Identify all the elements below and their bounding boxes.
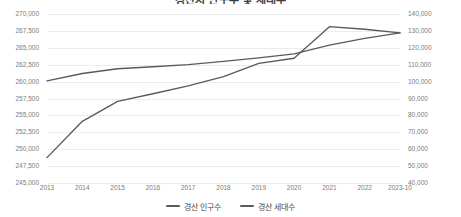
plot-area <box>47 14 400 183</box>
series-svg <box>47 14 400 183</box>
y-right-tick-label: 140,000 <box>408 11 432 18</box>
y-right-tick-label: 70,000 <box>408 129 428 136</box>
x-tick-label: 2015 <box>110 185 124 192</box>
y-right-tick-label: 50,000 <box>408 163 428 170</box>
x-tick-label: 2019 <box>252 185 266 192</box>
legend-label-population: 경산 인구수 <box>184 201 221 212</box>
y-left-tick-label: 255,000 <box>16 112 40 119</box>
y-axis-right: 40,00050,00060,00070,00080,00090,000100,… <box>404 14 460 183</box>
legend-item-households[interactable]: 경산 세대수 <box>240 201 295 212</box>
y-right-tick-label: 60,000 <box>408 146 428 153</box>
y-left-tick-label: 247,500 <box>16 163 40 170</box>
legend-item-population[interactable]: 경산 인구수 <box>166 201 221 212</box>
x-tick-label: 2013 <box>40 185 54 192</box>
y-right-tick-label: 130,000 <box>408 28 432 35</box>
legend-swatch-households <box>240 205 254 207</box>
y-right-tick-label: 110,000 <box>408 62 431 69</box>
x-tick-label: 2017 <box>181 185 195 192</box>
y-left-tick-label: 250,000 <box>16 146 40 153</box>
line-chart: 경산시 인구수 및 세대수 245,000247,500250,000252,5… <box>0 0 461 217</box>
y-left-tick-label: 267,500 <box>16 28 40 35</box>
x-tick-label: 2016 <box>146 185 160 192</box>
y-left-tick-label: 245,000 <box>16 180 40 187</box>
x-tick-label: 2018 <box>216 185 230 192</box>
x-tick-label: 2021 <box>322 185 336 192</box>
y-left-tick-label: 270,000 <box>16 11 40 18</box>
y-right-tick-label: 90,000 <box>408 96 428 103</box>
chart-title: 경산시 인구수 및 세대수 <box>0 0 461 4</box>
series-line-households <box>47 27 400 158</box>
y-left-tick-label: 265,000 <box>16 45 40 52</box>
x-axis: 2013201420152016201720182019202020212022… <box>47 185 400 197</box>
y-right-tick-label: 120,000 <box>408 45 432 52</box>
legend-swatch-population <box>166 205 180 207</box>
y-left-tick-label: 262,500 <box>16 62 40 69</box>
y-left-tick-label: 257,500 <box>16 96 40 103</box>
x-tick-label: 2020 <box>287 185 301 192</box>
y-left-tick-label: 252,500 <box>16 129 40 136</box>
series-layer <box>47 14 400 183</box>
y-left-tick-label: 260,000 <box>16 79 40 86</box>
x-tick-label: 2023-10 <box>388 185 412 192</box>
x-tick-label: 2022 <box>357 185 371 192</box>
y-axis-left: 245,000247,500250,000252,500255,000257,5… <box>0 14 43 183</box>
x-tick-label: 2014 <box>75 185 89 192</box>
y-right-tick-label: 100,000 <box>408 79 432 86</box>
chart-legend: 경산 인구수 경산 세대수 <box>0 199 461 213</box>
y-right-tick-label: 80,000 <box>408 112 428 119</box>
legend-label-households: 경산 세대수 <box>258 201 295 212</box>
series-line-population <box>47 33 400 81</box>
